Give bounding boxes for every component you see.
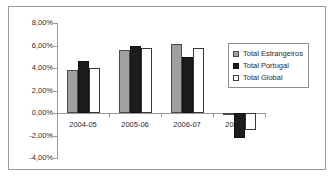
y-axis-tick-label: 6,00% (19, 42, 53, 50)
x-axis-tick-label: 2004-05 (57, 120, 109, 129)
y-axis-tick-label: -4,00% (19, 154, 53, 162)
chart-frame: 8,00%6,00%4,00%2,00%0,00%-2,00%-4,00% 20… (8, 6, 326, 170)
bar (130, 46, 141, 114)
legend-item-label: Total Estrangeiros (243, 49, 303, 58)
x-axis-tick-label: 2006-07 (161, 120, 213, 129)
legend-item[interactable]: Total Global (233, 72, 303, 83)
y-axis-tick (53, 91, 58, 92)
legend-item[interactable]: Total Estrangeiros (233, 48, 303, 59)
legend-item-label: Total Global (243, 73, 283, 82)
y-axis-tick-label: -2,00% (19, 132, 53, 140)
y-axis-tick (53, 46, 58, 47)
bar (89, 68, 100, 113)
bar (193, 48, 204, 113)
y-axis-tick (53, 158, 58, 159)
bar (171, 44, 182, 113)
y-axis-tick (53, 23, 58, 24)
x-axis-tick (213, 113, 214, 117)
bar (234, 113, 245, 138)
legend-swatch-icon (233, 75, 239, 81)
bar (141, 48, 152, 113)
y-axis-tick-label: 0,00% (19, 109, 53, 117)
bar (67, 70, 78, 113)
bar (245, 113, 256, 130)
x-axis-tick (265, 113, 266, 117)
bar (223, 113, 234, 115)
bar (78, 61, 89, 113)
y-axis-tick (53, 136, 58, 137)
y-axis-tick-label: 2,00% (19, 87, 53, 95)
x-axis-tick (109, 113, 110, 117)
y-axis-tick-label: 8,00% (19, 19, 53, 27)
x-axis-tick-label: 2005-06 (109, 120, 161, 129)
chart-legend: Total EstrangeirosTotal PortugalTotal Gl… (228, 43, 309, 88)
legend-item-label: Total Portugal (243, 61, 289, 70)
legend-swatch-icon (233, 63, 239, 69)
y-axis-tick (53, 113, 58, 114)
y-axis-tick-label: 4,00% (19, 64, 53, 72)
bar (119, 50, 130, 113)
bar (182, 57, 193, 113)
legend-swatch-icon (233, 51, 239, 57)
x-axis-tick (161, 113, 162, 117)
legend-item[interactable]: Total Portugal (233, 60, 303, 71)
y-axis-tick (53, 68, 58, 69)
